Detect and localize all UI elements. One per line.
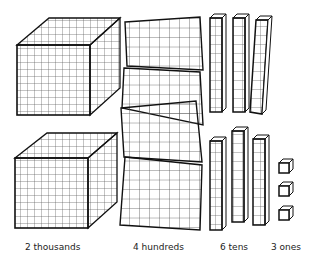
tens-label: 6 tens <box>220 242 248 252</box>
thousand-cube-1 <box>17 18 120 115</box>
ten-rod-1 <box>210 14 226 112</box>
unit-cube-1 <box>279 159 293 173</box>
thousand-cube-2 <box>15 133 117 228</box>
ten-rod-5 <box>232 127 248 222</box>
base-ten-blocks-diagram <box>0 0 311 262</box>
hundred-flat-4 <box>120 157 202 230</box>
thousands-label: 2 thousands <box>25 242 80 252</box>
unit-cube-3 <box>279 206 293 220</box>
unit-cube-2 <box>279 182 293 196</box>
ten-rod-4 <box>210 137 226 230</box>
hundreds-label: 4 hundreds <box>133 242 184 252</box>
ten-rod-6 <box>253 135 269 225</box>
ten-rod-2 <box>233 14 249 112</box>
hundred-flat-1 <box>125 17 203 70</box>
hundred-flat-3 <box>121 101 202 162</box>
ones-label: 3 ones <box>271 242 301 252</box>
ten-rod-3 <box>250 16 272 114</box>
